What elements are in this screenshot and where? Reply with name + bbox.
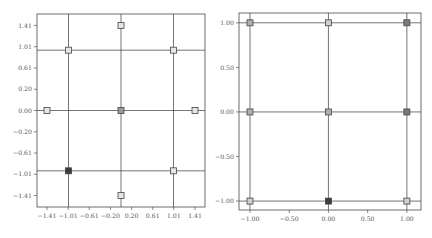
x-tick-label: 0.61 (146, 212, 160, 219)
data-point (325, 109, 331, 115)
data-point (404, 109, 410, 115)
x-tick-label: −0.20 (101, 212, 120, 219)
data-point (118, 193, 124, 199)
data-point (404, 198, 410, 204)
y-tick-label: 1.00 (220, 19, 234, 26)
data-point (247, 20, 253, 26)
left-scatter-panel: −1.41−1.01−0.61−0.200.200.611.011.411.41… (13, 14, 205, 219)
y-tick-label: 1.01 (18, 43, 32, 50)
figure: −1.41−1.01−0.61−0.200.200.611.011.411.41… (0, 0, 432, 238)
data-point (171, 168, 177, 174)
y-tick-label: −0.20 (13, 128, 32, 135)
y-tick-label: 1.41 (18, 22, 32, 29)
data-point (118, 22, 124, 28)
x-tick-label: 1.00 (400, 215, 414, 222)
data-point (247, 109, 253, 115)
data-point (404, 20, 410, 26)
data-point (66, 47, 72, 53)
data-point (325, 20, 331, 26)
y-tick-label: −1.41 (13, 192, 32, 199)
y-tick-label: 0.50 (220, 64, 234, 71)
y-tick-label: 0.61 (18, 64, 32, 71)
x-tick-label: 1.01 (167, 212, 181, 219)
y-tick-label: −0.50 (215, 153, 234, 160)
x-tick-label: −1.41 (37, 212, 56, 219)
x-tick-label: −1.00 (240, 215, 259, 222)
x-tick-label: −0.50 (280, 215, 299, 222)
x-tick-label: 0.50 (361, 215, 375, 222)
x-tick-label: −1.01 (59, 212, 78, 219)
right-scatter-panel: −1.00−0.500.000.501.001.000.500.00−0.50−… (215, 13, 421, 222)
y-tick-label: −0.61 (13, 149, 32, 156)
data-point (325, 198, 331, 204)
data-point (192, 108, 198, 114)
data-point (247, 198, 253, 204)
y-tick-label: −1.01 (13, 170, 32, 177)
x-tick-label: 0.00 (322, 215, 336, 222)
y-tick-label: 0.20 (18, 85, 32, 92)
x-tick-label: −0.61 (80, 212, 99, 219)
y-tick-label: −1.00 (215, 197, 234, 204)
data-point (44, 108, 50, 114)
data-point (118, 108, 124, 114)
x-tick-label: 1.41 (188, 212, 202, 219)
data-point (171, 47, 177, 53)
data-point (66, 168, 72, 174)
y-tick-label: 0.00 (18, 107, 32, 114)
y-tick-label: 0.00 (220, 108, 234, 115)
x-tick-label: 0.20 (125, 212, 139, 219)
